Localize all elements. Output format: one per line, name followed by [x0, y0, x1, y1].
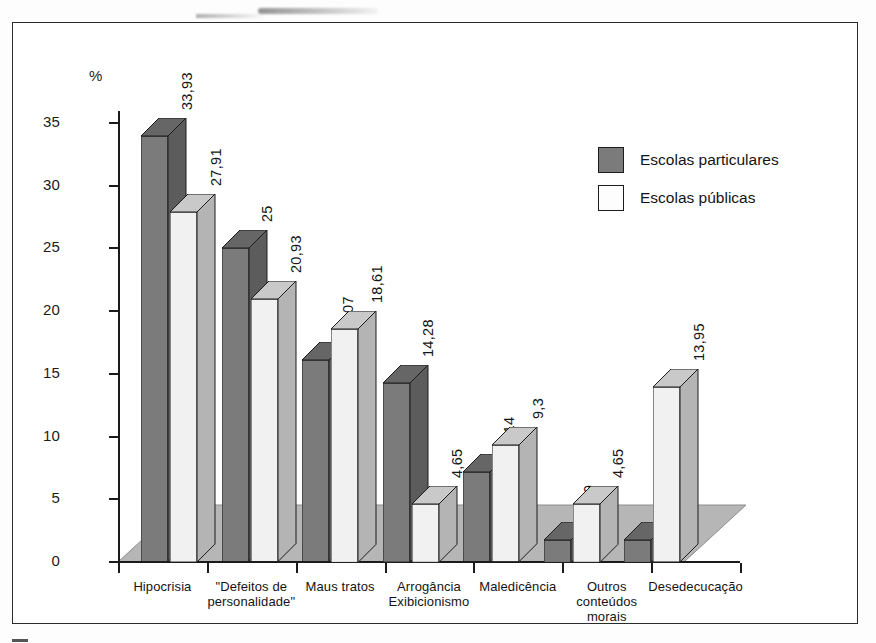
bar-s0-c0: [141, 136, 168, 562]
x-tick-2: [296, 563, 298, 573]
bar-s1-c0: [170, 212, 197, 562]
bar-value-label: 27,91: [208, 148, 224, 186]
bar-3d-shape: [331, 311, 378, 564]
category-label-line: morais: [550, 609, 663, 624]
x-tick-3: [385, 563, 387, 573]
plot-area: % 05101520253035 33,9327,912520,9316,071…: [13, 23, 859, 625]
bar-value-label: 13,95: [691, 323, 707, 361]
x-tick-7: [740, 563, 742, 573]
legend-label: Escolas particulares: [640, 151, 779, 169]
bar-s1-c1: [251, 299, 278, 562]
category-label-6: Desedecucação: [639, 579, 752, 594]
bar-3d-shape: [653, 369, 700, 564]
legend-swatch-dark: [598, 147, 624, 173]
bar-s1-c4: [492, 445, 519, 562]
chart-frame: % 05101520253035 33,9327,912520,9316,071…: [12, 22, 858, 624]
bar-series-group: 33,9327,912520,9316,0718,6114,284,657,14…: [13, 23, 859, 625]
legend-label: Escolas públicas: [640, 189, 755, 207]
bar-s0-c5: [544, 540, 571, 562]
category-label-line: personalidade": [195, 594, 308, 609]
category-label-line: Exibicionismo: [373, 594, 486, 609]
chart-page: % 05101520253035 33,9327,912520,9316,071…: [0, 0, 876, 643]
x-tick-0: [118, 563, 120, 573]
bar-3d-shape: [573, 486, 620, 564]
bar-s1-c6: [653, 387, 680, 562]
bar-s0-c3: [383, 383, 410, 562]
legend-swatch-light: [598, 185, 624, 211]
bar-3d-shape: [412, 486, 459, 564]
bar-3d-shape: [170, 194, 217, 564]
bar-value-label: 20,93: [288, 236, 304, 274]
bar-s0-c4: [463, 472, 490, 562]
x-tick-1: [207, 563, 209, 573]
bar-s1-c2: [331, 329, 358, 562]
x-tick-6: [651, 563, 653, 573]
bar-value-label: 9,3: [530, 398, 546, 419]
bar-value-label: 4,65: [610, 448, 626, 477]
bar-value-label: 18,61: [369, 265, 385, 303]
x-tick-5: [562, 563, 564, 573]
legend-item-1: Escolas públicas: [598, 179, 779, 217]
caption-cutoff: [12, 636, 122, 643]
category-label-line: Desedecucação: [639, 579, 752, 594]
chart-legend: Escolas particularesEscolas públicas: [598, 141, 779, 217]
bar-value-label: 33,93: [179, 73, 195, 111]
bar-s1-c3: [412, 504, 439, 562]
legend-item-0: Escolas particulares: [598, 141, 779, 179]
bar-3d-shape: [251, 281, 298, 564]
bar-s0-c2: [302, 360, 329, 562]
x-tick-4: [473, 563, 475, 573]
category-label-line: conteúdos: [550, 594, 663, 609]
scan-artifact-secondary: [196, 14, 266, 18]
bar-value-label: 25: [259, 206, 275, 223]
bar-s0-c6: [624, 540, 651, 562]
bar-3d-shape: [492, 427, 539, 564]
bar-s1-c5: [573, 504, 600, 562]
scan-artifact: [258, 8, 378, 14]
bar-s0-c1: [222, 248, 249, 562]
bar-value-label: 14,28: [420, 319, 436, 357]
